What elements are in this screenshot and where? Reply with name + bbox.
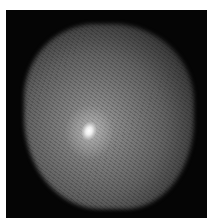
astronomical-image <box>6 10 207 218</box>
